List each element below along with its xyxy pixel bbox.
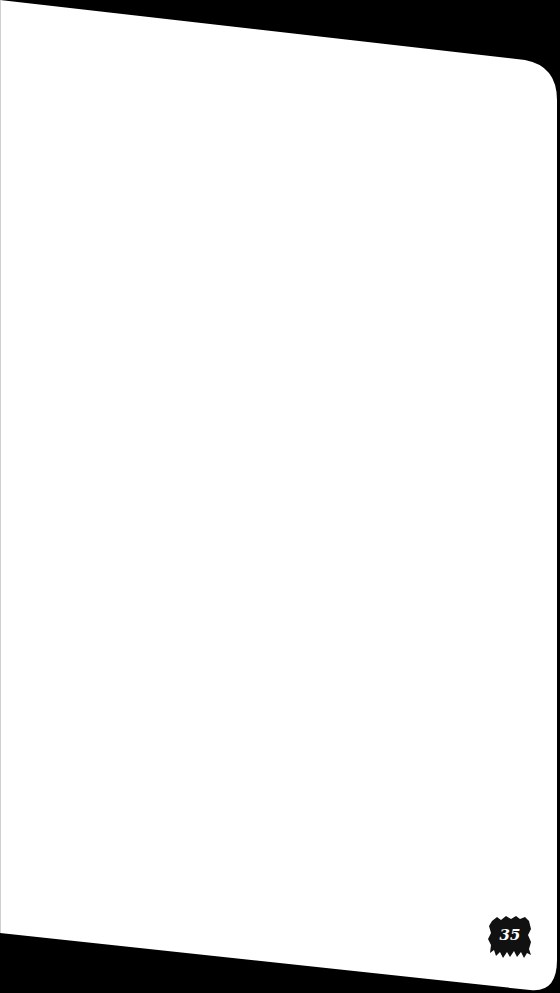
notebook-page bbox=[0, 0, 560, 993]
paper-sheet bbox=[0, 0, 557, 990]
page-number-badge: 35 bbox=[487, 915, 533, 959]
page-number: 35 bbox=[487, 915, 533, 955]
